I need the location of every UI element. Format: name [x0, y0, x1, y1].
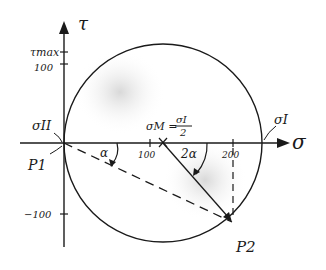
sigma-ii-leader [54, 133, 62, 142]
sigma-m-numerator: σI [176, 114, 188, 125]
sigma-axis-arrow-icon [277, 138, 290, 148]
sigma-200-label: 200 [221, 150, 239, 160]
tau-axis-arrow-icon [59, 21, 69, 34]
tau-neg100-label: −100 [24, 209, 52, 220]
p2-label: P2 [235, 238, 256, 256]
sigma-m-lhs: σM = [146, 120, 178, 133]
sigma-i-leader [264, 126, 276, 140]
mohr-circle-diagram: τ τmax 100 −100 100 200 σ σII σI σM = σI… [0, 0, 326, 270]
sigma-axis-label: σ [292, 130, 307, 154]
sigma-ii-label: σII [32, 118, 52, 133]
tau-100-label: 100 [34, 62, 54, 73]
p1-label: P1 [27, 157, 46, 173]
sigma-100-label: 100 [138, 150, 155, 160]
p1-leader [50, 146, 62, 154]
tau-axis-label: τ [78, 13, 89, 34]
sigma-m-denominator: 2 [179, 127, 186, 138]
angle-alpha-label: α [100, 146, 108, 160]
angle-2alpha-label: 2α [180, 147, 197, 161]
sigma-i-label: σI [274, 112, 289, 127]
tau-max-label: τmax [30, 46, 60, 59]
